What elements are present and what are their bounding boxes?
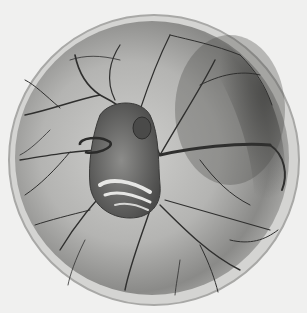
illustration-frame <box>0 0 307 313</box>
embryo-eye <box>133 117 151 139</box>
egg-embryo-illustration <box>0 0 307 313</box>
